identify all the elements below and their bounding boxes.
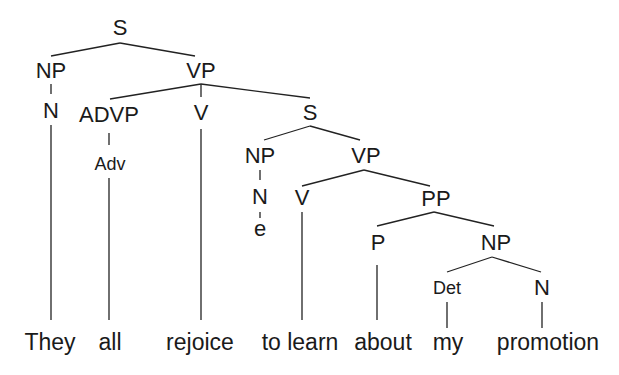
word-rejoice: rejoice [166,329,234,355]
node-s-embedded: S [303,100,318,125]
word-they: They [24,329,76,355]
node-vp-main: VP [186,58,215,83]
node-pp: PP [421,186,450,211]
node-v-embedded: V [295,185,310,210]
node-np-embedded: NP [245,143,276,168]
node-adv: Adv [94,154,125,174]
word-about: about [354,329,412,355]
node-det: Det [433,278,461,298]
sentence-words: They all rejoice to learn about my promo… [24,329,599,355]
node-s-root: S [113,15,128,40]
node-np-object: NP [481,230,512,255]
node-n-embedded: N [252,184,268,209]
node-np-subject: NP [36,58,67,83]
word-all: all [98,329,121,355]
node-advp: ADVP [79,102,139,127]
tree-nodes: S NP N VP ADVP Adv V S NP N e VP V PP P … [36,15,550,300]
node-n-subject: N [43,98,59,123]
node-v-main: V [194,100,209,125]
node-n-object: N [534,275,550,300]
syntax-tree: S NP N VP ADVP Adv V S NP N e VP V PP P … [0,0,619,375]
node-empty-e: e [254,216,266,241]
node-vp-embedded: VP [351,143,380,168]
word-promotion: promotion [497,329,599,355]
word-my: my [433,329,464,355]
word-to-learn: to learn [262,329,339,355]
node-p: P [371,230,386,255]
